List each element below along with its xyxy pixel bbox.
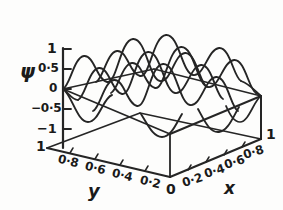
zero-plane-far-left (63, 69, 154, 89)
psi-tick-0-5: 0·5 (38, 62, 59, 74)
psi-tick-neg-1: −1 (37, 122, 57, 135)
psi-tick-0: 0 (49, 82, 57, 94)
surface-plot-figure: ψ 1 0·5 0 −0·5 −1 1 0·8 0·6 0·4 0·2 y 0 … (0, 0, 283, 210)
floor-far-edge-left (47, 113, 140, 148)
y-axis-label: y (88, 182, 100, 200)
psi-tick-neg-0-5: −0·5 (31, 102, 62, 114)
x-tick-1: 1 (266, 127, 276, 141)
psi-tick-1: 1 (47, 41, 57, 55)
zero-plane-left-edge (63, 89, 170, 134)
x-origin-label: 0 (166, 182, 176, 196)
floor-far-edge-right (140, 113, 261, 139)
wave-curve-trough-front (63, 89, 112, 122)
zero-plane-right-edge (170, 96, 261, 134)
psi-axis-label: ψ (20, 62, 35, 81)
y-tick-1: 1 (36, 139, 46, 153)
x-axis-label: x (224, 180, 235, 197)
y-axis-ticks (70, 148, 148, 171)
wave-curve-trough-front-3 (198, 107, 239, 132)
